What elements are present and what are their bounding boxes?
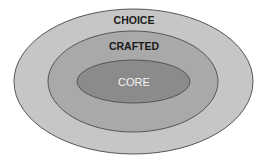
label-crafted: CRAFTED [109, 40, 160, 52]
label-core: CORE [118, 76, 150, 88]
nested-ellipse-diagram: CHOICE CRAFTED CORE [0, 0, 267, 163]
label-choice: CHOICE [114, 14, 155, 26]
